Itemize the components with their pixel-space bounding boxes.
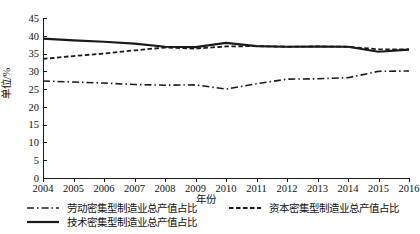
legend-row-1: 劳动密集型制造业总产值占比 资本密集型制造业总产值占比	[0, 201, 412, 215]
y-tick-text: 5	[34, 155, 43, 166]
legend-item-capital-intensive[interactable]: 资本密集型制造业总产值占比	[228, 202, 399, 215]
x-tick-mark	[226, 178, 227, 182]
plot-area	[43, 18, 409, 178]
x-tick-mark	[409, 178, 410, 182]
legend-swatch-solid-icon	[26, 217, 60, 227]
x-tick-mark	[318, 178, 319, 182]
x-tick-mark	[135, 178, 136, 182]
x-tick-mark	[348, 178, 349, 182]
x-tick-mark	[104, 178, 105, 182]
legend-item-tech-intensive[interactable]: 技术密集型制造业总产值占比	[26, 216, 218, 229]
legend-swatch-dashed-icon	[228, 203, 262, 213]
x-tick-mark	[43, 178, 44, 182]
x-tick-mark	[196, 178, 197, 182]
legend-label-capital-intensive: 资本密集型制造业总产值占比	[269, 202, 399, 215]
y-tick-text: 15	[29, 120, 44, 131]
x-tick-mark	[165, 178, 166, 182]
series-line	[43, 39, 409, 52]
x-tick-mark	[379, 178, 380, 182]
y-tick-text: 25	[29, 84, 44, 95]
legend-row-2: 技术密集型制造业总产值占比	[0, 215, 412, 229]
legend-label-tech-intensive: 技术密集型制造业总产值占比	[67, 216, 197, 229]
y-axis-title: 单位/%	[1, 56, 12, 112]
y-tick-text: 35	[29, 49, 44, 60]
legend-swatch-dash-dot-icon	[26, 203, 60, 213]
y-tick-text: 40	[29, 31, 44, 42]
x-tick-mark	[74, 178, 75, 182]
series-lines	[43, 18, 409, 178]
legend-item-labor-intensive[interactable]: 劳动密集型制造业总产值占比	[26, 202, 218, 215]
y-tick-text: 20	[29, 102, 44, 113]
x-tick-mark	[287, 178, 288, 182]
x-tick-mark	[257, 178, 258, 182]
y-tick-text: 30	[29, 67, 44, 78]
legend-label-labor-intensive: 劳动密集型制造业总产值占比	[67, 202, 197, 215]
chart-legend: 劳动密集型制造业总产值占比 资本密集型制造业总产值占比 技术密集型制造业总产值占	[0, 201, 412, 229]
y-tick-text: 45	[29, 13, 44, 24]
series-line	[43, 71, 409, 89]
y-tick-text: 10	[29, 138, 44, 149]
